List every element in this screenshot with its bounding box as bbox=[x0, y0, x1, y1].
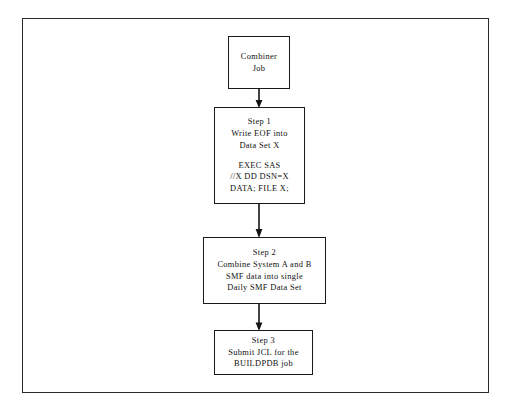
node-text-line: Step 1 bbox=[248, 116, 271, 128]
node-text-line: SMF data into single bbox=[226, 271, 303, 283]
node-text-line: Step 2 bbox=[253, 247, 276, 259]
node-text-line: Write EOF into bbox=[231, 128, 288, 140]
node-text-line: BUILDPDB job bbox=[234, 358, 293, 370]
connector-arrow-combiner-to-step1 bbox=[252, 88, 266, 108]
flow-node-step-2: Step 2 Combine System A and B SMF data i… bbox=[203, 237, 326, 304]
node-code-line: DATA; FILE X; bbox=[230, 183, 289, 195]
node-text-line: Job bbox=[253, 63, 266, 75]
connector-arrow-step2-to-step3 bbox=[252, 303, 266, 331]
node-text-line: Submit JCL for the bbox=[228, 347, 298, 359]
node-code-line: //X DD DSN=X bbox=[230, 171, 289, 183]
flow-node-combiner-job: Combiner Job bbox=[228, 36, 290, 89]
connector-arrow-step1-to-step2 bbox=[252, 203, 266, 238]
flow-node-step-1: Step 1 Write EOF into Data Set X EXEC SA… bbox=[214, 107, 305, 204]
node-text-line: Step 3 bbox=[252, 335, 275, 347]
node-text-line: Combiner bbox=[241, 51, 277, 63]
flow-node-step-3: Step 3 Submit JCL for the BUILDPDB job bbox=[214, 330, 313, 375]
node-code-line: EXEC SAS bbox=[238, 160, 280, 172]
node-text-line: Combine System A and B bbox=[217, 259, 311, 271]
node-text-line: Daily SMF Data Set bbox=[227, 282, 301, 294]
node-text-line: Data Set X bbox=[239, 140, 279, 152]
